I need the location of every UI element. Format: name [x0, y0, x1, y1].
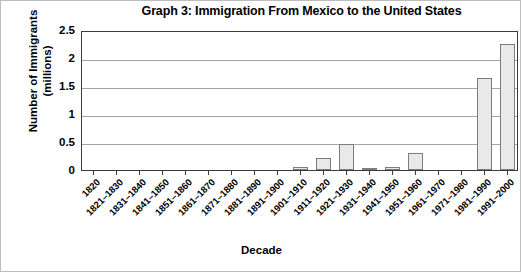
x-axis-tick-mark: [369, 171, 370, 175]
x-axis-tick-mark: [185, 171, 186, 175]
x-axis-tick-mark: [116, 171, 117, 175]
x-axis-tick-mark: [323, 171, 324, 175]
bar: [408, 153, 422, 170]
x-axis-tick-mark: [208, 171, 209, 175]
x-axis-tick-mark: [254, 171, 255, 175]
x-axis-tick-mark: [139, 171, 140, 175]
x-axis-tick-mark: [507, 171, 508, 175]
x-axis-tick-mark: [461, 171, 462, 175]
x-axis-tick-mark: [392, 171, 393, 175]
bar: [477, 78, 491, 170]
x-axis-title: Decade: [1, 244, 521, 256]
y-axis-tick-label: 0: [35, 165, 75, 176]
bar: [339, 144, 353, 170]
y-axis-tick-label: 1.5: [35, 81, 75, 92]
bar: [316, 158, 330, 170]
x-axis-tick-mark: [438, 171, 439, 175]
y-axis-tick-label: 2: [35, 53, 75, 64]
x-axis-tick-mark: [484, 171, 485, 175]
plot-area: [81, 31, 518, 171]
y-axis-tick-label: 0.5: [35, 137, 75, 148]
bar: [293, 167, 307, 170]
bar: [385, 167, 399, 170]
gridline: [82, 88, 517, 89]
x-axis-tick-mark: [300, 171, 301, 175]
x-axis-tick-mark: [277, 171, 278, 175]
x-axis-tick-mark: [162, 171, 163, 175]
x-axis-tick-mark: [346, 171, 347, 175]
x-axis-tick-mark: [93, 171, 94, 175]
y-axis-tick-label: 1: [35, 109, 75, 120]
gridline: [82, 60, 517, 61]
gridline: [82, 144, 517, 145]
bar: [362, 168, 376, 170]
bar: [500, 44, 514, 170]
y-axis-tick-label: 2.5: [35, 25, 75, 36]
gridline: [82, 116, 517, 117]
x-axis-tick-mark: [231, 171, 232, 175]
chart-figure: Graph 3: Immigration From Mexico to the …: [0, 0, 521, 272]
x-axis-tick-mark: [415, 171, 416, 175]
